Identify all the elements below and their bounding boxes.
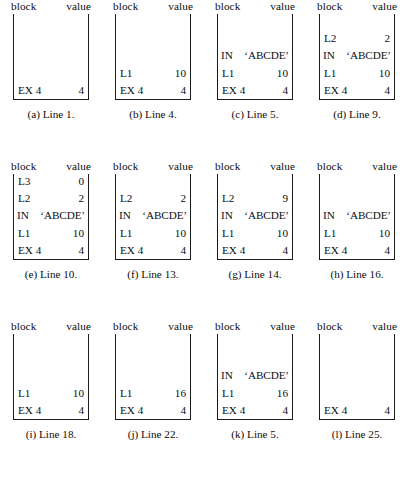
stack-entry-block: EX 4 (18, 242, 41, 259)
panel-caption: (g) Line 14. (228, 267, 281, 282)
stack-box: IN‘ABCDE’L110EX 44 (217, 14, 293, 100)
panel-caption: (c) Line 5. (232, 107, 279, 122)
stack-entry-value: ‘ABCDE’ (244, 47, 289, 64)
stack-entry-block: IN (221, 47, 233, 64)
stack-entry: EX 44 (320, 402, 394, 419)
figure-panel-e: blockvalueL30L22IN‘ABCDE’L110EX 44(e) Li… (0, 160, 102, 320)
stack-entry: EX 44 (116, 402, 190, 419)
stack-diagram: blockvalueIN‘ABCDE’L110EX 44 (211, 0, 299, 100)
stack-entry-value: 16 (277, 385, 288, 402)
stack-entry-value: 10 (379, 225, 390, 242)
stack-entry-value: 4 (78, 82, 84, 99)
stack-entry-value: 0 (78, 173, 84, 190)
panel-caption: (f) Line 13. (127, 267, 178, 282)
panel-caption: (a) Line 1. (28, 107, 75, 122)
stack-entry-block: L1 (222, 225, 234, 242)
stack-entry-block: L1 (120, 65, 132, 82)
stack-entry-value: 10 (175, 225, 186, 242)
column-header-block: block (11, 160, 36, 173)
stack-box: L29IN‘ABCDE’L110EX 44 (217, 174, 293, 260)
stack-entry-value: 4 (282, 82, 288, 99)
stack-entry-block: EX 4 (324, 242, 347, 259)
stack-entry-block: L1 (324, 225, 336, 242)
stack-box: L22IN‘ABCDE’L110EX 44 (115, 174, 191, 260)
stack-column-headers: blockvalue (215, 0, 295, 13)
stack-entry-block: L1 (18, 225, 30, 242)
stack-column-headers: blockvalue (113, 160, 193, 173)
stack-entry-block: EX 4 (120, 402, 143, 419)
stack-box: L116EX 44 (115, 334, 191, 420)
stack-entry-value: 16 (175, 385, 186, 402)
stack-entry: L110 (14, 225, 88, 242)
stack-entry-block: L2 (222, 190, 234, 207)
panel-caption: (i) Line 18. (26, 427, 77, 442)
stack-entry-value: ‘ABCDE’ (244, 367, 289, 384)
stack-entry-block: L3 (18, 173, 30, 190)
stack-entry-value: ‘ABCDE’ (244, 207, 289, 224)
panel-caption: (j) Line 22. (128, 427, 179, 442)
stack-entry: IN‘ABCDE’ (320, 207, 394, 224)
stack-entry-block: IN (119, 207, 131, 224)
stack-entry: EX 44 (218, 402, 292, 419)
stack-box: IN‘ABCDE’L116EX 44 (217, 334, 293, 420)
stack-entry: IN‘ABCDE’ (218, 207, 292, 224)
stack-entry-value: 4 (78, 402, 84, 419)
panel-caption: (e) Line 10. (25, 267, 78, 282)
column-header-block: block (317, 160, 342, 173)
stack-entry: EX 44 (218, 242, 292, 259)
stack-diagram: blockvalueEX 44 (7, 0, 95, 100)
stack-entry: L116 (218, 385, 292, 402)
stack-entry: EX 44 (14, 82, 88, 99)
stack-entry: EX 44 (14, 402, 88, 419)
stack-column-headers: blockvalue (215, 320, 295, 333)
stack-entry: EX 44 (320, 242, 394, 259)
panel-caption: (l) Line 25. (332, 427, 383, 442)
panel-caption: (b) Line 4. (129, 107, 177, 122)
column-header-value: value (66, 160, 91, 173)
figure-panel-k: blockvalueIN‘ABCDE’L116EX 44(k) Line 5. (204, 320, 306, 486)
stack-column-headers: blockvalue (317, 160, 397, 173)
stack-entry-block: EX 4 (222, 242, 245, 259)
column-header-block: block (113, 320, 138, 333)
stack-diagram: blockvalueL110EX 44 (109, 0, 197, 100)
stack-entry-block: L1 (222, 385, 234, 402)
stack-entry-block: EX 4 (120, 242, 143, 259)
column-header-block: block (215, 160, 240, 173)
column-header-value: value (66, 0, 91, 13)
stack-entry: IN‘ABCDE’ (14, 207, 88, 224)
stack-entry: EX 44 (14, 242, 88, 259)
stack-entry: IN‘ABCDE’ (116, 207, 190, 224)
column-header-value: value (372, 0, 397, 13)
stack-entry-value: 10 (277, 65, 288, 82)
stack-entry-value: 4 (282, 402, 288, 419)
column-header-block: block (215, 0, 240, 13)
figure-panel-c: blockvalueIN‘ABCDE’L110EX 44(c) Line 5. (204, 0, 306, 160)
stack-box: EX 44 (319, 334, 395, 420)
stack-entry: L22 (116, 190, 190, 207)
column-header-block: block (11, 320, 36, 333)
column-header-value: value (372, 320, 397, 333)
stack-entry-block: EX 4 (18, 82, 41, 99)
stack-entry-block: EX 4 (222, 82, 245, 99)
stack-column-headers: blockvalue (215, 160, 295, 173)
column-header-value: value (168, 320, 193, 333)
stack-entry-block: EX 4 (222, 402, 245, 419)
stack-figure-grid: blockvalueEX 44(a) Line 1.blockvalueL110… (0, 0, 408, 486)
column-header-block: block (113, 0, 138, 13)
stack-column-headers: blockvalue (11, 160, 91, 173)
column-header-block: block (113, 160, 138, 173)
stack-diagram: blockvalueIN‘ABCDE’L116EX 44 (211, 320, 299, 420)
stack-column-headers: blockvalue (11, 0, 91, 13)
stack-diagram: blockvalueIN‘ABCDE’L110EX 44 (313, 160, 401, 260)
stack-box: L22IN‘ABCDE’L110EX 44 (319, 14, 395, 100)
stack-entry-value: 4 (384, 402, 390, 419)
stack-entry: L110 (218, 225, 292, 242)
figure-panel-row: blockvalueL110EX 44(i) Line 18.blockvalu… (0, 320, 408, 486)
figure-panel-b: blockvalueL110EX 44(b) Line 4. (102, 0, 204, 160)
stack-entry-value: 10 (73, 225, 84, 242)
stack-entry-value: 10 (175, 65, 186, 82)
stack-diagram: blockvalueEX 44 (313, 320, 401, 420)
figure-panel-f: blockvalueL22IN‘ABCDE’L110EX 44(f) Line … (102, 160, 204, 320)
stack-entry-block: L2 (324, 30, 336, 47)
figure-panel-a: blockvalueEX 44(a) Line 1. (0, 0, 102, 160)
